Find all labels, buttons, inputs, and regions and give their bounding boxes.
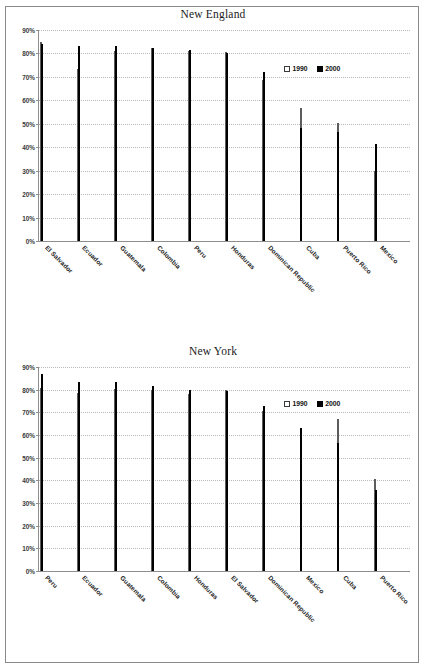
legend-label-1990: 1990 — [293, 400, 308, 407]
y-axis-tick-label: 0% — [26, 238, 35, 245]
bar-group — [225, 367, 262, 571]
x-axis-label: Puerto Rico — [379, 574, 410, 605]
legend-swatch-1990-icon — [284, 401, 290, 407]
x-axis-label: Mexico — [305, 574, 326, 595]
bar-group — [76, 367, 113, 571]
bars-new-york — [39, 367, 410, 571]
x-axis-label: Colombia — [156, 244, 182, 270]
x-axis-label: Honduras — [193, 574, 220, 601]
bar-group — [39, 30, 76, 241]
legend-label-2000: 2000 — [325, 65, 340, 72]
bar-group — [336, 30, 373, 241]
x-axis-label: Colombia — [156, 574, 182, 600]
page: New England 0%10%20%30%40%50%60%70%80%90… — [0, 0, 426, 670]
bar-2000 — [226, 391, 228, 571]
bar-2000 — [115, 46, 117, 241]
new-york-chart: New York 0%10%20%30%40%50%60%70%80%90% 1… — [0, 345, 426, 665]
bar-2000 — [226, 53, 228, 241]
bar-group — [373, 30, 410, 241]
legend-new-england: 1990 2000 — [284, 65, 340, 72]
y-axis-tick-label: 70% — [22, 73, 35, 80]
x-axis-label: Cuba — [305, 244, 322, 261]
legend-item-1990: 1990 — [284, 65, 308, 72]
bar-2000 — [337, 132, 339, 241]
x-axis-label: Peru — [44, 574, 59, 589]
bar-group — [262, 367, 299, 571]
x-axis-label: Ecuador — [81, 574, 105, 598]
bar-group — [299, 367, 336, 571]
y-axis-tick-label: 10% — [22, 214, 35, 221]
bar-2000 — [263, 406, 265, 571]
y-axis-tick-label: 0% — [26, 568, 35, 575]
x-axis-labels-new-york: PeruEcuadorGuatemalaColombiaHondurasEl S… — [38, 574, 410, 654]
legend-swatch-2000-icon — [317, 401, 323, 407]
y-axis-tick-label: 90% — [22, 27, 35, 34]
bar-2000 — [189, 50, 191, 241]
bar-2000 — [41, 374, 43, 571]
y-axis-tick-label: 90% — [22, 364, 35, 371]
y-axis-tick-label: 50% — [22, 120, 35, 127]
y-axis-tick-mark — [36, 241, 39, 242]
x-axis-label: Guatemala — [119, 244, 148, 273]
legend-swatch-1990-icon — [284, 66, 290, 72]
x-axis-label: Guatemala — [119, 574, 148, 603]
x-axis-label: Mexico — [379, 244, 400, 265]
x-axis-label: Ecuador — [81, 244, 105, 268]
x-axis-label: Honduras — [230, 244, 257, 271]
bar-2000 — [375, 490, 377, 571]
legend-item-2000: 2000 — [317, 400, 341, 407]
bar-group — [336, 367, 373, 571]
chart-title-new-york: New York — [0, 345, 426, 357]
bar-group — [150, 30, 187, 241]
bar-group — [299, 30, 336, 241]
y-axis-tick-label: 10% — [22, 545, 35, 552]
bar-group — [187, 367, 224, 571]
bar-2000 — [375, 144, 377, 241]
bar-2000 — [263, 72, 265, 241]
bar-2000 — [300, 128, 302, 241]
bar-group — [113, 367, 150, 571]
x-axis-label: El Salvador — [230, 574, 260, 604]
y-axis-tick-label: 80% — [22, 386, 35, 393]
bar-2000 — [152, 386, 154, 571]
legend-item-1990: 1990 — [284, 400, 308, 407]
bars-new-england — [39, 30, 410, 241]
bar-group — [187, 30, 224, 241]
y-axis-tick-label: 60% — [22, 431, 35, 438]
bar-group — [39, 367, 76, 571]
bar-2000 — [337, 443, 339, 571]
bar-2000 — [115, 382, 117, 571]
bar-group — [225, 30, 262, 241]
y-axis-tick-mark — [36, 571, 39, 572]
bar-2000 — [78, 382, 80, 571]
y-axis-tick-label: 50% — [22, 454, 35, 461]
bar-2000 — [78, 46, 80, 241]
y-axis-tick-label: 30% — [22, 167, 35, 174]
legend-new-york: 1990 2000 — [284, 400, 340, 407]
y-axis-tick-label: 20% — [22, 191, 35, 198]
bar-2000 — [152, 48, 154, 241]
bar-group — [113, 30, 150, 241]
y-axis-tick-label: 80% — [22, 50, 35, 57]
bar-group — [76, 30, 113, 241]
x-axis-labels-new-england: El SalvadorEcuadorGuatemalaColombiaPeruH… — [38, 244, 410, 324]
legend-label-1990: 1990 — [293, 65, 308, 72]
x-axis-label: Puerto Rico — [342, 244, 373, 275]
y-axis-tick-label: 40% — [22, 477, 35, 484]
x-axis-label: El Salvador — [44, 244, 74, 274]
y-axis-tick-label: 20% — [22, 522, 35, 529]
legend-swatch-2000-icon — [317, 66, 323, 72]
bar-2000 — [41, 44, 43, 241]
bar-2000 — [189, 390, 191, 571]
bar-group — [150, 367, 187, 571]
y-axis-tick-label: 70% — [22, 409, 35, 416]
plot-area-new-york: 0%10%20%30%40%50%60%70%80%90% — [38, 367, 410, 572]
bar-2000 — [300, 428, 302, 571]
legend-item-2000: 2000 — [317, 65, 341, 72]
new-england-chart: New England 0%10%20%30%40%50%60%70%80%90… — [0, 8, 426, 338]
bar-group — [262, 30, 299, 241]
x-axis-label: Cuba — [342, 574, 359, 591]
x-axis-label: Peru — [193, 244, 208, 259]
y-axis-tick-label: 40% — [22, 144, 35, 151]
y-axis-tick-label: 30% — [22, 499, 35, 506]
